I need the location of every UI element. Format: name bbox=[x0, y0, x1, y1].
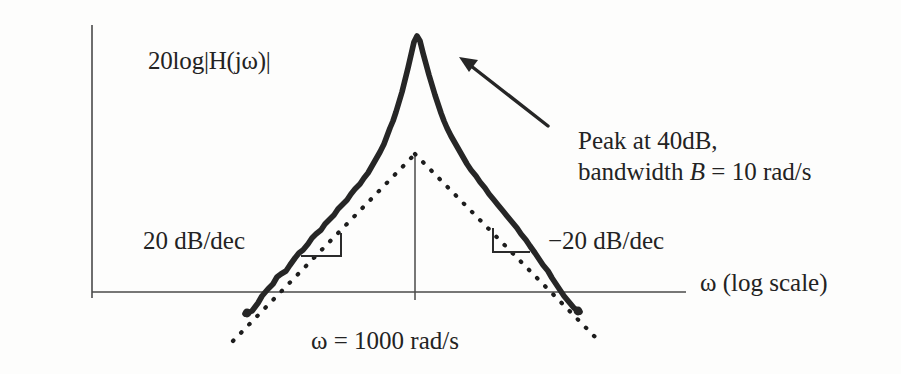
right-slope-label: −20 dB/dec bbox=[548, 226, 664, 256]
figure-canvas bbox=[0, 0, 901, 374]
peak-annotation-line-2: bandwidth B = 10 rad/s bbox=[578, 157, 812, 187]
left-asymptote-dotted bbox=[233, 154, 415, 341]
magnitude-response-curve bbox=[245, 36, 580, 314]
peak-annotation-line-1: Peak at 40dB, bbox=[578, 126, 718, 156]
y-axis-label: 20log|H(jω)| bbox=[148, 46, 271, 76]
center-frequency-label: ω = 1000 rad/s bbox=[311, 326, 459, 356]
peak-callout-arrow bbox=[459, 57, 548, 126]
bode-magnitude-figure: 20log|H(jω)| Peak at 40dB, bandwidth B =… bbox=[0, 0, 901, 374]
x-axis-label: ω (log scale) bbox=[700, 268, 828, 298]
bandwidth-text-prefix: bandwidth bbox=[578, 158, 690, 185]
curve-right-endpoint bbox=[574, 307, 583, 316]
left-slope-label: 20 dB/dec bbox=[143, 226, 245, 256]
curve-left-endpoint bbox=[243, 309, 252, 318]
bandwidth-symbol: B bbox=[690, 158, 705, 185]
bandwidth-text-suffix: = 10 rad/s bbox=[705, 158, 811, 185]
